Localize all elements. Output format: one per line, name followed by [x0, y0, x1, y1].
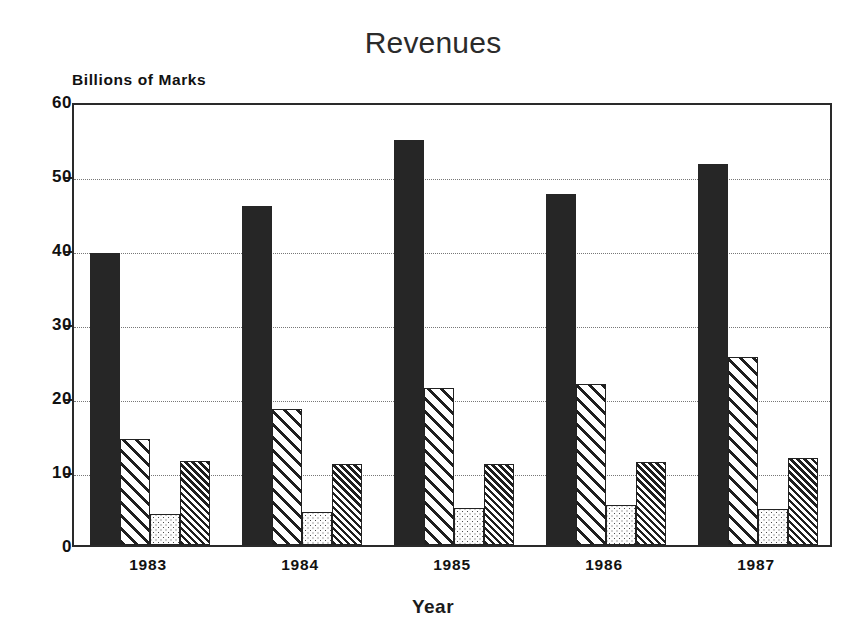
bar: [302, 512, 332, 545]
bar: [576, 384, 606, 545]
bar: [484, 464, 514, 545]
x-tick-label: 1986: [585, 556, 623, 574]
chart-title: Revenues: [0, 26, 866, 60]
bar: [546, 194, 576, 545]
plot-area: [72, 103, 832, 547]
y-tick-label: 50: [12, 167, 72, 187]
bar: [454, 508, 484, 545]
bar: [424, 388, 454, 545]
bar: [394, 140, 424, 545]
y-axis: 0102030405060: [0, 0, 72, 643]
x-tick-label: 1985: [433, 556, 471, 574]
y-tick-label: 20: [12, 389, 72, 409]
bar: [272, 409, 302, 545]
y-tick-label: 10: [12, 463, 72, 483]
x-tick-label: 1987: [737, 556, 775, 574]
y-tick-label: 60: [12, 93, 72, 113]
bar: [180, 461, 210, 545]
bar: [606, 505, 636, 545]
bar: [698, 164, 728, 545]
y-tick-label: 30: [12, 315, 72, 335]
y-tick-label: 40: [12, 241, 72, 261]
x-axis-label: Year: [0, 596, 866, 618]
chart-figure: Revenues Billions of Marks 0102030405060…: [0, 0, 866, 643]
bar: [728, 357, 758, 545]
bar: [242, 206, 272, 545]
bar: [636, 462, 666, 545]
bar: [758, 509, 788, 545]
bar: [788, 458, 818, 545]
y-axis-label: Billions of Marks: [72, 71, 206, 89]
bar: [150, 514, 180, 545]
bar: [120, 439, 150, 545]
y-tick-label: 0: [12, 537, 72, 557]
x-tick-label: 1984: [281, 556, 319, 574]
bar: [332, 464, 362, 545]
x-tick-label: 1983: [129, 556, 167, 574]
bar: [90, 253, 120, 545]
